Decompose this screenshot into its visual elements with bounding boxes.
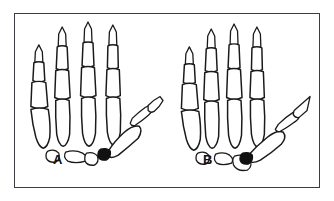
cmc-joint-marker-b [240, 152, 253, 164]
panel-label-a: A [53, 152, 63, 167]
middle-phalanges-a [33, 42, 118, 82]
thumb-distal-phalanx-a [148, 97, 163, 113]
distal-phalanges-a [35, 22, 117, 63]
panel-label-b: B [203, 152, 213, 167]
panel-a: A [15, 14, 167, 187]
figure-frame-border: A [14, 13, 320, 188]
panel-b: B [167, 14, 319, 187]
cmc-joint-marker-a [98, 149, 111, 161]
figure-root: A [0, 0, 334, 201]
hand-skeleton-b [167, 14, 319, 187]
distal-phalanges-b [185, 24, 261, 65]
thumb-distal-phalanx-b [293, 97, 310, 118]
hand-skeleton-a [15, 14, 167, 187]
